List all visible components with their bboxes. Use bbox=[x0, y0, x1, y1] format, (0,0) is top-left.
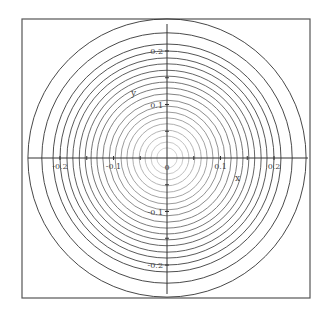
y-tick-label: -0.2 bbox=[148, 261, 163, 270]
x-tick-label: 0 bbox=[164, 163, 169, 172]
contour-plot: -0.2-0.100.10.20.20.1-0.1-0.2 x y bbox=[0, 0, 325, 315]
y-tick-label: 0.2 bbox=[150, 47, 163, 56]
y-tick-label: -0.1 bbox=[148, 208, 163, 217]
x-tick-label: -0.2 bbox=[52, 162, 67, 171]
x-tick-label: -0.1 bbox=[106, 162, 121, 171]
y-axis-label: y bbox=[130, 88, 137, 98]
x-tick-label: 0.1 bbox=[214, 162, 227, 171]
x-axis-label: x bbox=[235, 173, 240, 183]
y-tick-label: 0.1 bbox=[150, 101, 163, 110]
x-tick-label: 0.2 bbox=[268, 162, 281, 171]
